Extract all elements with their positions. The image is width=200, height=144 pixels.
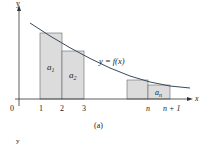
bar-n-minus bbox=[127, 80, 148, 99]
tick-3: 3 bbox=[82, 104, 86, 113]
origin-label: 0 bbox=[10, 104, 14, 113]
tick-n-plus-1: n + 1 bbox=[163, 104, 180, 113]
x-axis-arrow-icon bbox=[187, 97, 193, 101]
second-panel-y-label: y bbox=[16, 137, 20, 144]
curve-label: y = f(x) bbox=[98, 56, 125, 66]
caption: (a) bbox=[94, 121, 103, 130]
riemann-sum-diagram: y x 0 1 2 3 n n + 1 a1 a2 an y = f(x) (a… bbox=[0, 0, 200, 144]
y-axis-label: y bbox=[16, 0, 20, 8]
tick-1: 1 bbox=[39, 104, 43, 113]
x-axis-label: x bbox=[194, 94, 199, 103]
tick-n: n bbox=[146, 104, 150, 113]
tick-2: 2 bbox=[60, 104, 64, 113]
